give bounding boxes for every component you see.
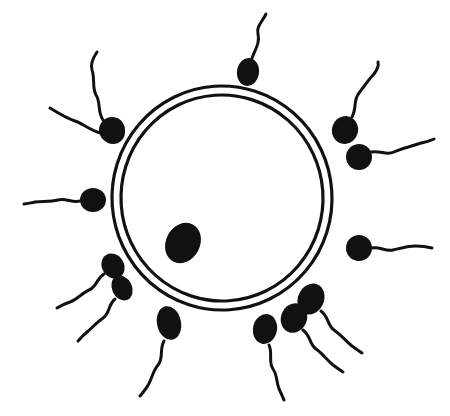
fertilization-illustration (0, 0, 450, 416)
sperm-left-middle-head (80, 188, 106, 212)
sperm-right-middle-head (346, 235, 372, 261)
illustration-canvas (0, 0, 450, 416)
sperm-upper-left-inner-head (101, 120, 125, 144)
